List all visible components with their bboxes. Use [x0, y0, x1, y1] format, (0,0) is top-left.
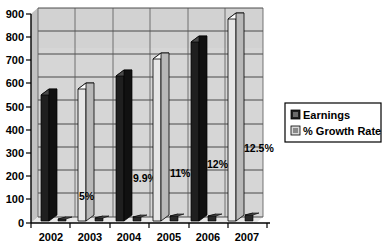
y-tick-label: 600: [6, 77, 24, 89]
bar-earnings-2005: [153, 53, 169, 221]
legend-swatch-earnings-inner: [293, 112, 298, 117]
y-tick-label: 100: [6, 193, 24, 205]
y-tick-label: 200: [6, 170, 24, 182]
category-label-2007: 2007: [235, 231, 259, 243]
legend-item-growth-rate[interactable]: % Growth Rate: [291, 125, 381, 137]
bar-earnings-2007: [228, 13, 244, 221]
y-tick-label: 300: [6, 147, 24, 159]
legend-label-earnings: Earnings: [303, 109, 350, 121]
y-tick-label: 900: [6, 8, 24, 20]
data-label-2007: 12.5%: [244, 142, 274, 154]
data-label-2003: 5%: [79, 190, 95, 202]
legend-swatch-growth-rate-inner: [293, 128, 298, 133]
legend-label-growth-rate: % Growth Rate: [303, 125, 381, 137]
data-label-2005: 11%: [170, 167, 191, 179]
category-label-2002: 2002: [39, 231, 63, 243]
x-axis-category-labels: 2002 2003 2004 2005 2006 2007: [39, 231, 259, 243]
legend: Earnings % Growth Rate: [285, 103, 381, 142]
column-chart: 900 800 700 600 500 400 300 200 100 0: [0, 0, 386, 246]
x-axis: [31, 223, 270, 228]
data-label-2006: 12%: [207, 158, 229, 170]
y-tick-label: 800: [6, 31, 24, 43]
y-axis: [26, 14, 31, 223]
y-tick-label: 700: [6, 54, 24, 66]
y-axis-tick-labels: 900 800 700 600 500 400 300 200 100 0: [6, 8, 24, 229]
category-label-2003: 2003: [78, 231, 102, 243]
chart-container: 900 800 700 600 500 400 300 200 100 0: [0, 0, 386, 246]
bar-earnings-2004: [116, 70, 132, 221]
bar-earnings-2002: [41, 89, 57, 221]
category-label-2006: 2006: [196, 231, 220, 243]
y-tick-label: 500: [6, 101, 24, 113]
y-tick-label: 400: [6, 124, 24, 136]
y-tick-label: 0: [18, 217, 24, 229]
category-label-2004: 2004: [117, 231, 142, 243]
legend-item-earnings[interactable]: Earnings: [291, 109, 350, 121]
bar-earnings-2006: [191, 36, 207, 221]
category-label-2005: 2005: [157, 231, 181, 243]
